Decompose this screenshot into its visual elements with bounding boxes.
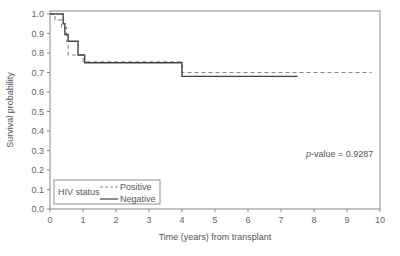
y-tick-label: 0.6 [31, 87, 44, 97]
legend-title: HIV status [58, 187, 100, 197]
x-tick-label: 0 [47, 215, 52, 225]
x-tick-label: 10 [375, 215, 385, 225]
x-tick-label: 7 [278, 215, 283, 225]
x-tick-label: 6 [245, 215, 250, 225]
x-axis-title: Time (years) from transplant [159, 232, 272, 242]
y-tick-label: 0.9 [31, 29, 44, 39]
x-tick-label: 1 [80, 215, 85, 225]
y-tick-label: 0.5 [31, 107, 44, 117]
x-tick-label: 8 [311, 215, 316, 225]
y-tick-label: 1.0 [31, 9, 44, 19]
x-tick-label: 4 [179, 215, 184, 225]
x-tick-label: 9 [344, 215, 349, 225]
legend-positive-label: Positive [120, 182, 152, 192]
y-axis-title: Survival probability [5, 72, 15, 148]
x-tick-label: 3 [146, 215, 151, 225]
y-tick-label: 0.1 [31, 185, 44, 195]
y-tick-label: 0.4 [31, 126, 44, 136]
y-tick-label: 0.8 [31, 48, 44, 58]
survival-curves [50, 14, 372, 76]
curve-positive [50, 14, 372, 73]
y-tick-label: 0.2 [31, 165, 44, 175]
x-tick-label: 2 [113, 215, 118, 225]
svg-text:p-value = 0.9287: p-value = 0.9287 [305, 149, 373, 159]
survival-chart: 0.00.10.20.30.40.50.60.70.80.91.0 012345… [0, 0, 400, 256]
legend: HIV status Positive Negative [54, 180, 160, 204]
p-value-annotation: p-value = 0.9287 [305, 149, 373, 159]
plot-frame [50, 11, 380, 209]
curve-negative [50, 14, 298, 76]
p-value-text: -value = 0.9287 [311, 149, 373, 159]
y-tick-label: 0.3 [31, 146, 44, 156]
y-axis: 0.00.10.20.30.40.50.60.70.80.91.0 [31, 9, 50, 214]
y-tick-label: 0.0 [31, 204, 44, 214]
legend-negative-label: Negative [120, 194, 156, 204]
x-tick-label: 5 [212, 215, 217, 225]
x-axis: 012345678910 [47, 209, 385, 225]
y-tick-label: 0.7 [31, 68, 44, 78]
